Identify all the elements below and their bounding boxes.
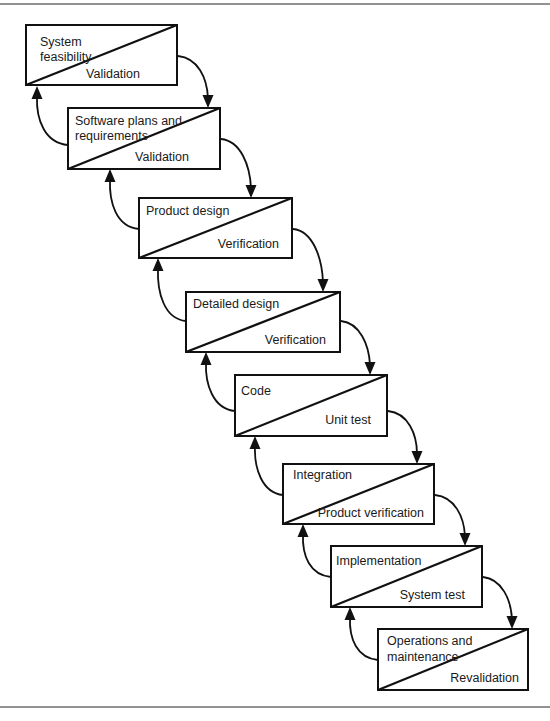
stage-software-plans-requirements: Software plans andrequirementsValidation [68, 108, 220, 169]
stage-operations-maintenance: Operations andmaintenanceRevalidation [378, 629, 528, 690]
forward-arrow-curve [178, 56, 208, 98]
arrowhead-up-icon [345, 607, 356, 620]
feedback-arrow-implementation-to-integration [298, 524, 332, 577]
feedback-arrow-curve [206, 362, 235, 411]
arrowhead-up-icon [105, 169, 116, 182]
stage-check-label: Validation [135, 150, 189, 164]
feedback-arrow-integration-to-code [250, 436, 284, 495]
arrowhead-down-icon [246, 185, 257, 198]
arrowhead-down-icon [203, 95, 214, 108]
arrowhead-down-icon [507, 616, 518, 629]
stage-detailed-design: Detailed designVerification [186, 292, 340, 352]
stage-phase-label: feasibility [40, 50, 92, 64]
feedback-arrow-detailed-design-to-product-design [153, 258, 187, 321]
stage-system-feasibility: SystemfeasibilityValidation [26, 25, 177, 85]
stage-implementation: ImplementationSystem test [331, 546, 482, 607]
stage-check-label: Product verification [318, 506, 424, 520]
stage-phase-label: Detailed design [193, 297, 279, 311]
forward-arrow-implementation-to-operations-maintenance [483, 577, 518, 629]
arrowhead-down-icon [412, 451, 423, 464]
stage-code: CodeUnit test [235, 375, 387, 436]
waterfall-diagram: SystemfeasibilityValidationSoftware plan… [0, 0, 550, 721]
forward-arrow-curve [388, 411, 417, 454]
arrowhead-up-icon [201, 352, 212, 365]
arrowhead-up-icon [298, 524, 309, 537]
stage-product-design: Product designVerification [139, 198, 292, 258]
arrowhead-up-icon [250, 436, 261, 449]
arrowhead-down-icon [365, 362, 376, 375]
forward-arrow-curve [435, 495, 465, 536]
stage-phase-label: requirements [75, 129, 148, 143]
forward-arrow-curve [221, 139, 251, 188]
forward-arrow-curve [341, 321, 370, 365]
feedback-arrow-curve [303, 534, 331, 577]
feedback-arrow-curve [158, 268, 186, 321]
forward-arrow-code-to-integration [388, 411, 423, 464]
stage-check-label: Verification [218, 237, 279, 251]
stage-phase-label: Integration [293, 468, 352, 482]
feedback-arrow-operations-maintenance-to-implementation [345, 607, 379, 660]
feedback-arrow-curve [255, 446, 283, 495]
stage-integration: IntegrationProduct verification [283, 464, 434, 524]
forward-arrow-curve [293, 229, 323, 282]
arrowhead-down-icon [460, 533, 471, 546]
stage-phase-label: Implementation [336, 554, 422, 568]
stage-phase-label: System [40, 35, 82, 49]
feedback-arrow-software-plans-requirements-to-system-feasibility [32, 86, 69, 145]
feedback-arrow-code-to-detailed-design [201, 352, 236, 411]
forward-arrow-curve [483, 577, 512, 619]
feedback-arrow-curve [110, 179, 139, 229]
arrowhead-down-icon [318, 279, 329, 292]
feedback-arrow-curve [37, 96, 68, 145]
stage-phase-label: maintenance [387, 650, 459, 664]
arrowhead-up-icon [153, 258, 164, 271]
forward-arrow-integration-to-implementation [435, 495, 471, 546]
arrowhead-up-icon [32, 86, 43, 99]
forward-arrow-software-plans-requirements-to-product-design [221, 139, 257, 198]
stage-check-label: Validation [86, 67, 140, 81]
stage-phase-label: Operations and [387, 634, 473, 648]
feedback-arrow-product-design-to-software-plans-requirements [105, 169, 140, 229]
forward-arrow-detailed-design-to-code [341, 321, 376, 375]
stage-phase-label: Code [241, 384, 271, 398]
feedback-arrow-curve [350, 617, 378, 660]
stage-check-label: Verification [265, 333, 326, 347]
stage-check-label: System test [400, 588, 466, 602]
stage-check-label: Unit test [325, 413, 371, 427]
forward-arrow-product-design-to-detailed-design [293, 229, 329, 292]
stage-check-label: Revalidation [450, 671, 519, 685]
stages-layer: SystemfeasibilityValidationSoftware plan… [26, 25, 528, 690]
stage-phase-label: Software plans and [75, 114, 182, 128]
forward-arrow-system-feasibility-to-software-plans-requirements [178, 56, 214, 108]
stage-phase-label: Product design [146, 204, 229, 218]
